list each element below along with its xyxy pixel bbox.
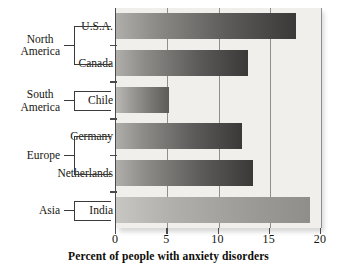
x-axis-label-10: 10	[211, 232, 223, 247]
bar-usa	[116, 13, 296, 39]
region-line1: South	[27, 88, 54, 100]
region-line1: Europe	[27, 148, 60, 160]
region-label-south: SouthAmerica	[20, 88, 60, 113]
bar-netherlands	[116, 160, 253, 186]
bar-canada	[116, 50, 248, 76]
y-axis-tick-5	[110, 191, 117, 193]
region-line1: Asia	[39, 204, 60, 216]
gridline-20	[321, 8, 322, 228]
bracket-south-america	[74, 91, 111, 111]
bar-germany	[116, 123, 242, 149]
x-axis-label-0: 0	[112, 232, 118, 247]
x-axis-label-5: 5	[163, 232, 169, 247]
bar-india	[116, 197, 310, 223]
bracket-asia	[74, 201, 111, 221]
bracket-stem-3	[64, 210, 74, 211]
region-line1: North	[27, 32, 54, 44]
bracket-europe	[74, 136, 111, 175]
region-line2: America	[20, 100, 60, 112]
x-axis-label-15: 15	[263, 232, 275, 247]
region-line2: America	[20, 45, 60, 57]
gridline-10	[219, 8, 220, 228]
bracket-stem-0	[64, 45, 74, 46]
y-axis-tick-1	[110, 45, 117, 47]
anxiety-disorders-bar-chart: 05101520 U.S.A.CanadaChileGermanyNetherl…	[0, 0, 337, 272]
y-axis-tick-3	[110, 118, 117, 120]
plot-area	[115, 8, 321, 228]
region-label-asia: Asia	[39, 204, 60, 217]
y-axis-tick-2	[110, 81, 117, 83]
x-axis-label-20: 20	[314, 232, 326, 247]
bracket-stem-1	[64, 100, 74, 101]
bracket-stem-2	[64, 155, 74, 156]
gridline-15	[270, 8, 271, 228]
x-axis-title: Percent of people with anxiety disorders	[0, 250, 337, 262]
gridline-5	[167, 8, 168, 228]
y-axis-tick-4	[110, 155, 117, 157]
region-label-europe: Europe	[27, 148, 60, 161]
bar-chile	[116, 87, 169, 113]
region-label-north: NorthAmerica	[20, 32, 60, 57]
bracket-north-america	[74, 26, 111, 65]
